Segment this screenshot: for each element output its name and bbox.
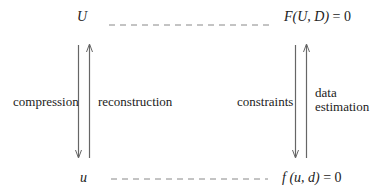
node-f-equation: f (u, d) = 0: [282, 171, 342, 185]
equation-lhs: f (u, d): [282, 170, 320, 185]
node-F-equation: F(U, D) = 0: [284, 10, 351, 24]
equation-lhs: F(U, D): [284, 9, 329, 24]
data-estimation-label-line2: estimation: [315, 100, 369, 114]
data-estimation-label-line1: data: [315, 86, 337, 100]
constraints-label: constraints: [237, 95, 293, 109]
compression-label: compression: [13, 95, 79, 109]
equation-rhs: = 0: [323, 170, 341, 185]
node-u: u: [80, 171, 87, 185]
reconstruction-label: reconstruction: [98, 95, 172, 109]
node-U: U: [77, 10, 87, 24]
equation-rhs: = 0: [333, 9, 351, 24]
